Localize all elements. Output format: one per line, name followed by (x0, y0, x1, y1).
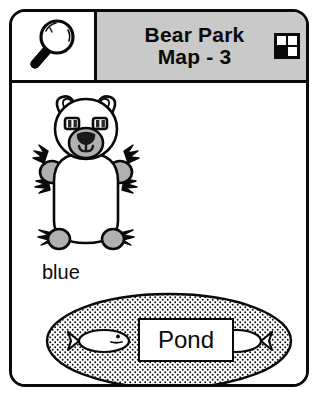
grid-cell-top-right (288, 36, 297, 45)
pond-label: Pond (158, 328, 214, 352)
map-card-screen: Bear Park Map - 3 (0, 0, 325, 400)
grid-cell-top-left (277, 36, 286, 45)
map-canvas: blue (12, 83, 306, 384)
grid-cell-bottom-right (288, 47, 297, 56)
card-header: Bear Park Map - 3 (12, 12, 306, 83)
quadrant-grid-icon[interactable] (274, 33, 300, 59)
search-button[interactable] (12, 12, 97, 80)
page-title: Bear Park Map - 3 (145, 24, 259, 68)
magnifier-icon (23, 15, 83, 77)
pond-label-box: Pond (138, 318, 234, 362)
card-title-area: Bear Park Map - 3 (97, 12, 306, 80)
pond-figure[interactable]: Pond (44, 291, 294, 387)
bear-label: blue (42, 261, 80, 284)
title-line-primary: Bear Park (145, 24, 245, 46)
map-card: Bear Park Map - 3 (9, 9, 309, 387)
grid-cell-bottom-left (277, 47, 286, 56)
title-line-secondary: Map - 3 (145, 46, 245, 68)
bear-figure[interactable] (26, 91, 146, 259)
